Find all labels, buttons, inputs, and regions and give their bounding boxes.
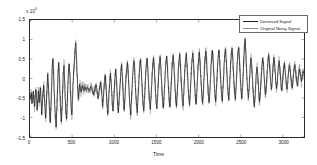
figure-canvas: x 104 1.5 1 0.5 0 -0.5 -1 -1.5 0 500 100… bbox=[0, 0, 317, 165]
y-tick-label-3: 0 bbox=[1, 76, 25, 81]
legend-entry-denoised: Denoised Signal bbox=[242, 18, 305, 25]
x-axis-label: Time bbox=[0, 151, 317, 157]
x-tick-label-1: 500 bbox=[57, 140, 87, 145]
x-tick-label-6: 3000 bbox=[269, 140, 299, 145]
y-tick-label-2: 0.5 bbox=[1, 56, 25, 61]
x-tick-label-4: 2000 bbox=[184, 140, 214, 145]
legend: Denoised Signal Original Noisy Signal bbox=[239, 15, 308, 33]
x-tick-label-3: 1500 bbox=[141, 140, 171, 145]
axis-ticks bbox=[30, 20, 304, 137]
y-axis-exponent-label: x 104 bbox=[26, 7, 37, 14]
y-tick-label-5: -1 bbox=[1, 116, 25, 121]
original-noisy-signal-line bbox=[30, 37, 304, 129]
signal-plot-svg bbox=[30, 20, 304, 137]
denoised-signal-line bbox=[30, 39, 304, 127]
y-tick-label-4: -0.5 bbox=[1, 96, 25, 101]
legend-label-denoised: Denoised Signal bbox=[260, 18, 291, 25]
y-tick-label-0: 1.5 bbox=[1, 17, 25, 22]
y-axis-exponent-power: 4 bbox=[35, 7, 37, 11]
legend-swatch-denoised-icon bbox=[243, 21, 258, 22]
legend-label-noisy: Original Noisy Signal bbox=[260, 25, 300, 32]
x-tick-label-2: 1000 bbox=[99, 140, 129, 145]
y-axis-exponent-prefix: x 10 bbox=[26, 9, 35, 14]
x-tick-label-0: 0 bbox=[14, 140, 44, 145]
legend-swatch-noisy-icon bbox=[243, 28, 258, 29]
x-tick-label-5: 2500 bbox=[226, 140, 256, 145]
y-tick-label-1: 1 bbox=[1, 36, 25, 41]
legend-entry-noisy: Original Noisy Signal bbox=[242, 25, 305, 32]
plot-area bbox=[29, 19, 305, 138]
